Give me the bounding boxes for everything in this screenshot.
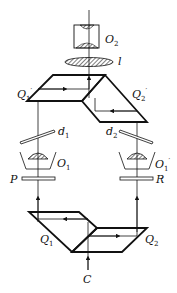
label-p: P	[10, 174, 17, 185]
label-l: l	[118, 56, 122, 67]
eyepiece-o2	[74, 25, 99, 48]
polarizer-p	[22, 177, 55, 180]
label-q2: Q2	[145, 234, 159, 248]
label-o1: O1	[57, 158, 71, 172]
label-o1-prime: O1′	[155, 158, 170, 173]
plate-d1	[20, 130, 55, 144]
label-r: R	[156, 174, 164, 185]
label-d2: d2	[106, 126, 118, 140]
prism-q2	[72, 228, 147, 252]
label-q2-prime: Q2′	[132, 88, 147, 103]
label-o2: O2	[105, 34, 119, 48]
label-c: C	[83, 274, 91, 285]
label-q1: Q1	[40, 234, 54, 248]
lens-l	[65, 58, 113, 67]
label-q1-prime: Q1′	[17, 88, 32, 103]
label-d1: d1	[58, 126, 70, 140]
optical-diagram	[0, 0, 177, 293]
plate-d2	[119, 130, 153, 144]
polarizer-r	[120, 177, 153, 180]
